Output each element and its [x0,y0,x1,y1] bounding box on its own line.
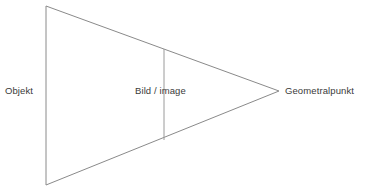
image-plane-label: Bild / image [135,85,186,97]
diagram-canvas [0,0,373,195]
object-label: Objekt [5,85,33,97]
lower-ray-line [46,91,279,185]
vanishing-point-label: Geometralpunkt [285,85,354,97]
upper-ray-line [46,6,279,91]
perspective-diagram: Objekt Bild / image Geometralpunkt [0,0,373,195]
